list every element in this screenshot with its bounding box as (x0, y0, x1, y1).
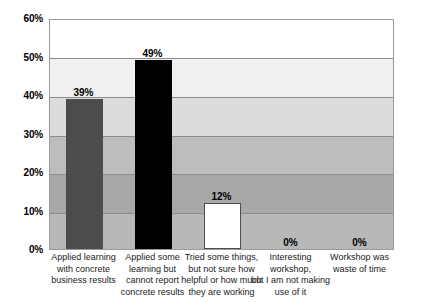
y-tick-label: 20% (24, 168, 43, 178)
bars-layer (50, 20, 393, 249)
bar-value-label: 39% (73, 87, 93, 98)
x-category-label: Workshop waswaste of time (317, 252, 402, 275)
bar-value-label: 49% (142, 48, 162, 59)
x-category-label-line: use of it (248, 287, 333, 299)
bar-value-label: 12% (211, 191, 231, 202)
x-category-label-line: Workshop was (317, 252, 402, 264)
y-tick-label: 50% (24, 53, 43, 63)
bar (135, 60, 172, 249)
y-tick-label: 10% (24, 207, 43, 217)
y-axis: 0%10%20%30%40%50%60% (0, 0, 46, 302)
bar (204, 203, 241, 249)
x-category-label-line: waste of time (317, 264, 402, 276)
y-tick-label: 30% (24, 130, 43, 140)
bar-value-label: 0% (352, 237, 366, 248)
bar-value-label: 0% (283, 237, 297, 248)
y-tick-label: 40% (24, 91, 43, 101)
plot-area (49, 19, 394, 250)
bar (66, 99, 103, 249)
y-tick-label: 60% (24, 14, 43, 24)
bar-chart: 0%10%20%30%40%50%60% 39%49%12%0%0% Appli… (0, 0, 422, 302)
x-axis-category-labels: Applied learningwith concretebusiness re… (49, 252, 394, 302)
x-category-label-line: but I am not making (248, 275, 333, 287)
